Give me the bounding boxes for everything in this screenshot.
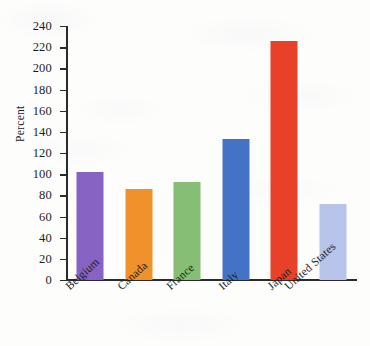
- y-axis-tick-label: 40: [39, 231, 52, 244]
- y-axis-tick-label: 20: [39, 253, 52, 266]
- bar-slot: [309, 26, 358, 280]
- bar-japan: [271, 41, 298, 280]
- x-axis-tick-labels: BelgiumCanadaFranceItalyJapanUnited Stat…: [66, 283, 357, 345]
- y-axis-tick-label: 140: [33, 126, 52, 139]
- y-axis-tick-label: 0: [46, 274, 52, 287]
- y-axis-tick-label: 220: [33, 41, 52, 54]
- y-axis-tick-label: 60: [39, 210, 52, 223]
- bar-slot: [66, 26, 115, 280]
- y-axis-tick-label: 100: [33, 168, 52, 181]
- bar-slot: [212, 26, 261, 280]
- y-axis-tick-label: 120: [33, 147, 52, 160]
- y-axis-tick-label: 200: [33, 62, 52, 75]
- bar-slot: [115, 26, 164, 280]
- bar-italy: [222, 139, 249, 280]
- bar-chart-figure: Percent 02040608010012014016018020022024…: [0, 0, 370, 346]
- y-axis-tick-label: 240: [33, 20, 52, 33]
- bar-series: [66, 26, 357, 280]
- bar-united-states: [319, 204, 346, 280]
- bar-slot: [163, 26, 212, 280]
- y-axis-tick-label: 80: [39, 189, 52, 202]
- bar-slot: [260, 26, 309, 280]
- y-axis-tick-label: 180: [33, 83, 52, 96]
- y-axis-tick-label: 160: [33, 104, 52, 117]
- y-axis-tick-labels: 020406080100120140160180200220240: [0, 26, 60, 280]
